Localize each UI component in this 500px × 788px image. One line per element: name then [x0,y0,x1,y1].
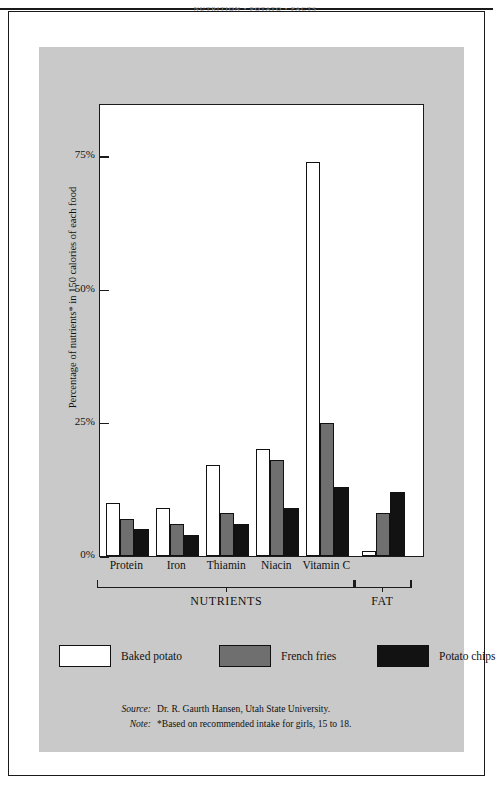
bar [206,465,220,556]
bar [320,423,334,556]
note-value: *Based on recommended intake for girls, … [157,717,451,732]
y-tick-mark [100,156,109,158]
note-row: Note: *Based on recommended intake for g… [111,717,451,732]
brace-nub [226,587,227,592]
y-tick-label: 50% [75,282,95,294]
brace-nub [382,587,383,592]
y-tick-label: 75% [75,148,95,160]
y-tick-mark [100,423,109,425]
bar [156,508,170,556]
group-brace-label: NUTRIENTS [97,594,356,609]
bar [306,162,320,556]
figure-notes: Source: Dr. R. Gaurth Hansen, Utah State… [111,702,451,732]
bar [234,524,248,556]
bars-layer: 0%25%50%75% [100,105,423,556]
bar-chart: Percentage of nutrients* in 150 calories… [39,47,464,577]
bar-group [362,105,405,556]
x-axis-label: Vitamin C [293,559,360,571]
bar [220,513,234,556]
bar [334,487,348,556]
legend-label: Potato chips [439,650,496,662]
page-frame: NUTRITION • POTATO • FACTS Percentage of… [8,11,485,776]
legend-swatch [219,645,271,667]
x-axis-labels: ProteinIronThiaminNiacinVitamin C [99,559,424,579]
figure-panel: Percentage of nutrients* in 150 calories… [39,47,464,752]
brace-tick-right [410,580,411,588]
plot-area: 0%25%50%75% [99,104,424,557]
bar [120,519,134,556]
group-brace: NUTRIENTS [97,578,356,590]
bar [270,460,284,556]
y-axis-label: Percentage of nutrients* in 150 calories… [67,153,78,443]
source-value: Dr. R. Gaurth Hansen, Utah State Univers… [157,702,451,717]
bar [134,529,148,556]
bar [362,551,376,556]
chart-legend: Baked potatoFrench friesPotato chips [59,642,459,682]
bar [390,492,404,556]
bar-group [306,105,349,556]
y-tick-mark [100,290,109,292]
legend-label: French fries [281,650,336,662]
legend-label: Baked potato [121,650,182,662]
group-brace: FAT [353,578,412,590]
bar [376,513,390,556]
bar [106,503,120,556]
legend-swatch [59,645,111,667]
note-label: Note: [111,717,151,732]
bar [170,524,184,556]
legend-item: French fries [219,642,336,670]
bar-group [206,105,249,556]
legend-item: Baked potato [59,642,182,670]
y-tick-mark [100,556,109,558]
bar [184,535,198,556]
bar-group [256,105,299,556]
running-head: NUTRITION • POTATO • FACTS [9,5,500,13]
group-brace-label: FAT [353,594,412,609]
legend-item: Potato chips [377,642,496,670]
bar-group [106,105,149,556]
bar [256,449,270,556]
category-group-braces: NUTRIENTSFAT [99,578,424,616]
legend-swatch [377,645,429,667]
source-row: Source: Dr. R. Gaurth Hansen, Utah State… [111,702,451,717]
y-tick-label: 25% [75,415,95,427]
bar-group [156,105,199,556]
source-label: Source: [111,702,151,717]
bar [284,508,298,556]
